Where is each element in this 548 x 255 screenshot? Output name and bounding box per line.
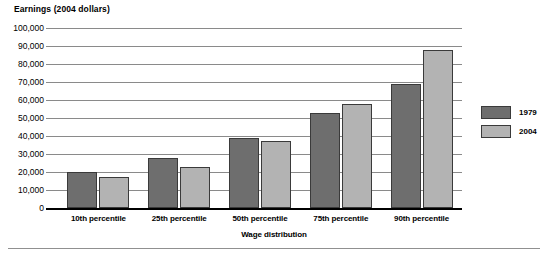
x-tick-label: 25th percentile — [152, 214, 207, 223]
bar-1979-10th-percentile — [67, 172, 97, 208]
bars-layer — [58, 28, 462, 208]
bar-2004-90th-percentile — [423, 50, 453, 208]
bar-1979-25th-percentile — [148, 158, 178, 208]
x-tick-label: 75th percentile — [313, 214, 368, 223]
x-tick-label: 50th percentile — [233, 214, 288, 223]
y-tick-label: 30,000 — [18, 150, 44, 159]
y-tick-label: 100,000 — [13, 24, 44, 33]
legend-label-2004: 2004 — [519, 127, 537, 136]
bar-2004-75th-percentile — [342, 104, 372, 208]
y-tick-label: 20,000 — [18, 168, 44, 177]
chart-legend: 19792004 — [481, 104, 537, 142]
x-axis-line — [46, 208, 462, 210]
y-tick-label: 70,000 — [18, 78, 44, 87]
plot-area: 010,00020,00030,00040,00050,00060,00070,… — [58, 28, 462, 208]
legend-item-2004: 2004 — [481, 123, 537, 139]
y-tick-label: 50,000 — [18, 114, 44, 123]
y-tick-label: 10,000 — [18, 186, 44, 195]
legend-swatch-1979 — [481, 106, 511, 119]
bar-1979-90th-percentile — [391, 84, 421, 208]
legend-label-1979: 1979 — [519, 108, 537, 117]
y-tick-label: 0 — [39, 204, 44, 213]
bottom-divider — [8, 248, 540, 249]
x-axis-title: Wage distribution — [0, 230, 548, 239]
y-tick-label: 40,000 — [18, 132, 44, 141]
bar-1979-75th-percentile — [310, 113, 340, 208]
y-tick-label: 80,000 — [18, 60, 44, 69]
bar-2004-50th-percentile — [261, 141, 291, 208]
chart-title: Earnings (2004 dollars) — [14, 4, 110, 14]
legend-swatch-2004 — [481, 125, 511, 138]
x-tick-label: 90th percentile — [394, 214, 449, 223]
y-tick-label: 90,000 — [18, 42, 44, 51]
y-tick-label: 60,000 — [18, 96, 44, 105]
legend-item-1979: 1979 — [481, 104, 537, 120]
x-tick-label: 10th percentile — [71, 214, 126, 223]
bar-2004-25th-percentile — [180, 167, 210, 208]
bar-2004-10th-percentile — [99, 177, 129, 209]
bar-1979-50th-percentile — [229, 138, 259, 208]
chart-figure: Earnings (2004 dollars) 010,00020,00030,… — [0, 0, 548, 255]
